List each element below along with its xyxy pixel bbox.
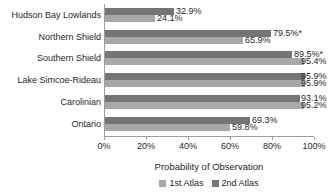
category-label: Hudson Bay Lowlands — [0, 10, 101, 20]
x-tick-mark — [146, 137, 147, 140]
bar-2nd-atlas — [105, 95, 300, 102]
value-label: 95.2% — [301, 101, 327, 110]
x-tick-mark — [104, 137, 105, 140]
x-axis-title: Probability of Observation — [104, 161, 314, 172]
x-tick-mark — [314, 137, 315, 140]
x-tick-label: 80% — [256, 141, 288, 151]
x-tick-label: 0% — [88, 141, 120, 151]
x-tick-label: 100% — [298, 141, 330, 151]
value-label: 24.1% — [157, 14, 183, 23]
category-label: Northern Shield — [0, 32, 101, 42]
legend-swatch-1st-atlas — [159, 180, 166, 187]
value-label: 59.8% — [232, 123, 258, 132]
value-label: 95.9% — [301, 79, 327, 88]
category-label: Ontario — [0, 119, 101, 129]
value-label: 79.5%* — [273, 29, 302, 38]
bar-1st-atlas — [105, 102, 304, 109]
bar-chart: Hudson Bay Lowlands32.9%24.1%Northern Sh… — [0, 0, 330, 193]
legend-item-2nd-atlas: 2nd Atlas — [212, 178, 259, 188]
bar-2nd-atlas — [105, 117, 250, 124]
x-tick-label: 60% — [214, 141, 246, 151]
bar-1st-atlas — [105, 124, 230, 131]
bar-1st-atlas — [105, 15, 155, 22]
bar-1st-atlas — [105, 80, 305, 87]
value-label: 65.9% — [245, 36, 271, 45]
bar-2nd-atlas — [105, 73, 305, 80]
legend-label-2nd-atlas: 2nd Atlas — [222, 178, 259, 188]
legend-item-1st-atlas: 1st Atlas — [159, 178, 203, 188]
x-tick-mark — [188, 137, 189, 140]
bar-1st-atlas — [105, 37, 243, 44]
legend: 1st Atlas 2nd Atlas — [104, 177, 314, 189]
legend-swatch-2nd-atlas — [212, 180, 219, 187]
category-label: Southern Shield — [0, 53, 101, 63]
x-tick-label: 40% — [172, 141, 204, 151]
x-axis-line — [104, 136, 314, 137]
value-label: 95.4% — [301, 57, 327, 66]
x-tick-label: 20% — [130, 141, 162, 151]
x-tick-mark — [230, 137, 231, 140]
legend-label-1st-atlas: 1st Atlas — [169, 178, 203, 188]
x-tick-mark — [272, 137, 273, 140]
category-label: Lake Simcoe-Rideau — [0, 75, 101, 85]
category-label: Carolinian — [0, 97, 101, 107]
bar-1st-atlas — [105, 58, 304, 65]
bar-2nd-atlas — [105, 51, 292, 58]
